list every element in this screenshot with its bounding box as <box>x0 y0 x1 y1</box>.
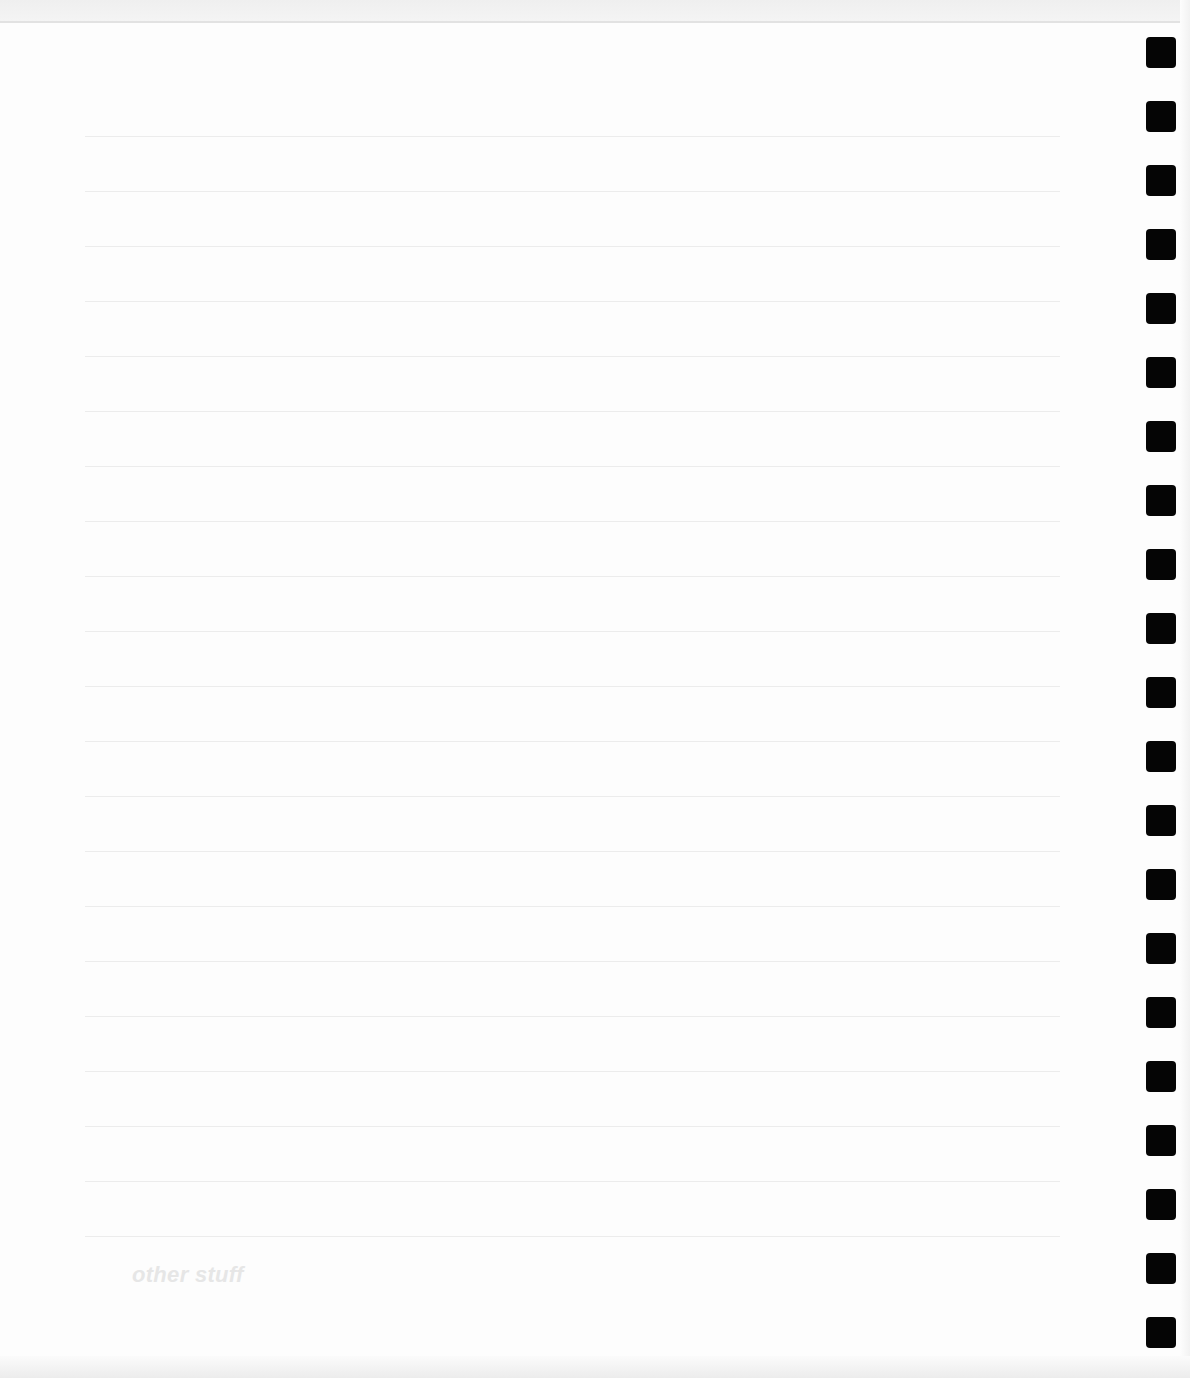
ruled-line <box>85 576 1060 577</box>
binding-hole <box>1146 741 1176 772</box>
ruled-line <box>85 356 1060 357</box>
page-bottom-edge <box>0 1356 1190 1378</box>
ruled-line <box>85 246 1060 247</box>
binding-hole <box>1146 1125 1176 1156</box>
binding-hole <box>1146 357 1176 388</box>
ruled-line <box>85 631 1060 632</box>
ruled-line <box>85 1181 1060 1182</box>
ruled-line <box>85 466 1060 467</box>
binding-hole <box>1146 485 1176 516</box>
binding-hole <box>1146 37 1176 68</box>
ruled-line <box>85 411 1060 412</box>
binding-hole <box>1146 229 1176 260</box>
footer-label: other stuff <box>132 1262 244 1288</box>
binding-hole <box>1146 1317 1176 1348</box>
binding-hole <box>1146 421 1176 452</box>
ruled-line <box>85 136 1060 137</box>
ruled-line <box>85 1126 1060 1127</box>
ruled-line <box>85 191 1060 192</box>
page-right-edge <box>1180 0 1190 1378</box>
binding-hole <box>1146 997 1176 1028</box>
ruled-line <box>85 906 1060 907</box>
ruled-line <box>85 521 1060 522</box>
ruled-line <box>85 686 1060 687</box>
ruled-line <box>85 851 1060 852</box>
binding-hole <box>1146 1253 1176 1284</box>
binding-hole <box>1146 101 1176 132</box>
ruled-line <box>85 741 1060 742</box>
ruled-line <box>85 1071 1060 1072</box>
binding-hole <box>1146 613 1176 644</box>
ruled-line <box>85 961 1060 962</box>
binding-hole <box>1146 677 1176 708</box>
binding-hole <box>1146 805 1176 836</box>
binding-hole <box>1146 933 1176 964</box>
ruled-line <box>85 1236 1060 1237</box>
binding-hole <box>1146 869 1176 900</box>
ruled-line <box>85 796 1060 797</box>
binding-hole <box>1146 549 1176 580</box>
ruled-lines <box>85 0 1060 1378</box>
ruled-line <box>85 1016 1060 1017</box>
ruled-line <box>85 301 1060 302</box>
binding-holes <box>1146 0 1176 1378</box>
binding-hole <box>1146 293 1176 324</box>
binding-hole <box>1146 1061 1176 1092</box>
binding-hole <box>1146 1189 1176 1220</box>
binding-hole <box>1146 165 1176 196</box>
